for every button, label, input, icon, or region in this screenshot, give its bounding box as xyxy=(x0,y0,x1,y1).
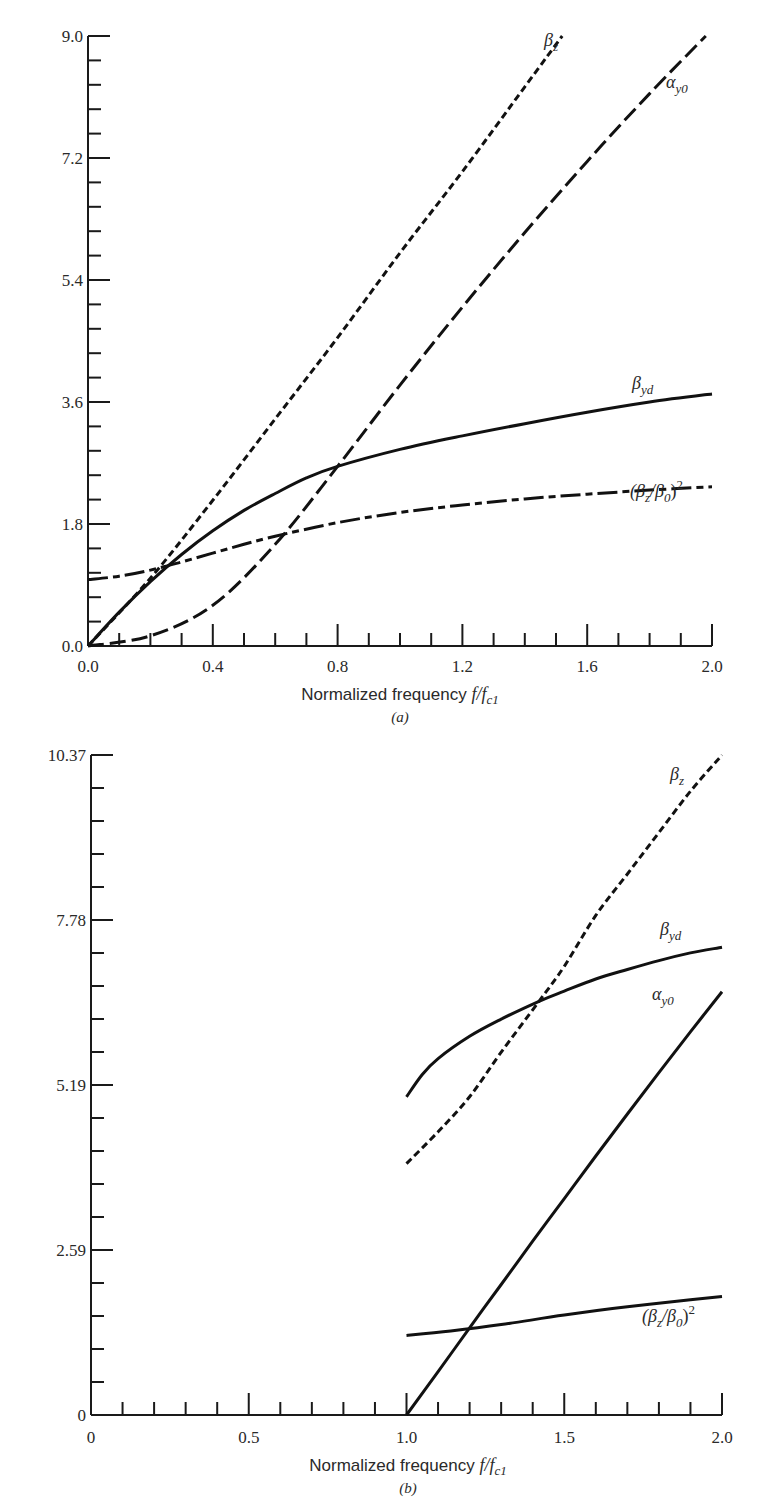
x-tick-label: 2.0 xyxy=(711,1428,732,1447)
x-tick-label: 2.0 xyxy=(701,657,722,676)
series-label: βyd xyxy=(659,919,682,943)
series-label: (βz/β0)2 xyxy=(642,1302,695,1330)
series-line--y0 xyxy=(407,992,723,1415)
series-label: αy0 xyxy=(666,72,688,96)
figure-caption: (b) xyxy=(399,1480,417,1497)
y-tick-label: 7.2 xyxy=(62,149,83,168)
x-axis-title: Normalized frequency f/fc1 xyxy=(309,1455,506,1478)
y-tick-label: 2.59 xyxy=(56,1241,86,1260)
x-tick-label: 0.4 xyxy=(202,657,224,676)
series-line--yd xyxy=(88,394,712,646)
figure: 0.01.83.65.47.29.00.00.40.81.21.62.0Norm… xyxy=(0,0,771,1500)
y-tick-label: 5.4 xyxy=(62,271,84,290)
y-tick-label: 10.37 xyxy=(48,746,87,765)
x-tick-label: 0.5 xyxy=(238,1428,259,1447)
y-tick-label: 3.6 xyxy=(62,393,83,412)
chart-a: 0.01.83.65.47.29.00.00.40.81.21.62.0Norm… xyxy=(62,27,723,726)
series-label: βyd xyxy=(631,373,654,397)
x-tick-label: 0.0 xyxy=(77,657,98,676)
series-line--z xyxy=(88,36,562,646)
x-tick-label: 0 xyxy=(87,1428,96,1447)
figure-caption: (a) xyxy=(391,709,409,726)
y-tick-label: 7.78 xyxy=(56,911,86,930)
x-tick-label: 1.6 xyxy=(577,657,598,676)
y-tick-label: 1.8 xyxy=(62,515,83,534)
x-axis-title: Normalized frequency f/fc1 xyxy=(301,684,498,707)
series-line--z xyxy=(407,755,723,1164)
chart-b: 02.595.197.7810.3700.51.01.52.0Normalize… xyxy=(48,746,733,1497)
x-tick-label: 1.5 xyxy=(554,1428,575,1447)
y-tick-label: 5.19 xyxy=(56,1076,86,1095)
x-tick-label: 0.8 xyxy=(327,657,348,676)
y-tick-label: 0 xyxy=(78,1406,87,1425)
series-label: αy0 xyxy=(652,984,674,1008)
series-line--yd xyxy=(407,947,723,1097)
y-tick-label: 9.0 xyxy=(62,27,83,46)
series-label: βz xyxy=(669,764,684,788)
series-line--z-0-2 xyxy=(88,487,712,580)
x-tick-label: 1.2 xyxy=(452,657,473,676)
y-tick-label: 0.0 xyxy=(62,637,83,656)
series-label: (βz/β0)2 xyxy=(630,477,683,505)
x-tick-label: 1.0 xyxy=(396,1428,417,1447)
